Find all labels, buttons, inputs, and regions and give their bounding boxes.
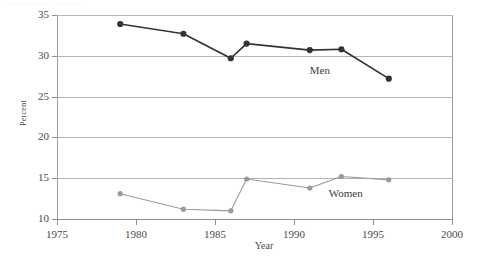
- series-layer: [0, 0, 499, 259]
- data-point-women: [307, 185, 312, 190]
- line-chart-figure: Percent Year 101520253035 19751980198519…: [0, 0, 499, 259]
- data-point-men: [338, 46, 344, 52]
- data-point-men: [244, 40, 250, 46]
- data-point-men: [386, 76, 392, 82]
- data-point-women: [386, 177, 391, 182]
- data-point-men: [117, 21, 123, 27]
- data-point-women: [181, 207, 186, 212]
- series-label-men: Men: [310, 64, 330, 76]
- data-point-women: [339, 174, 344, 179]
- series-line-men: [120, 24, 389, 79]
- data-point-men: [228, 55, 234, 61]
- data-point-men: [180, 31, 186, 37]
- data-point-men: [307, 47, 313, 53]
- data-point-women: [244, 176, 249, 181]
- data-point-women: [228, 208, 233, 213]
- series-label-women: Women: [329, 187, 363, 199]
- data-point-women: [118, 191, 123, 196]
